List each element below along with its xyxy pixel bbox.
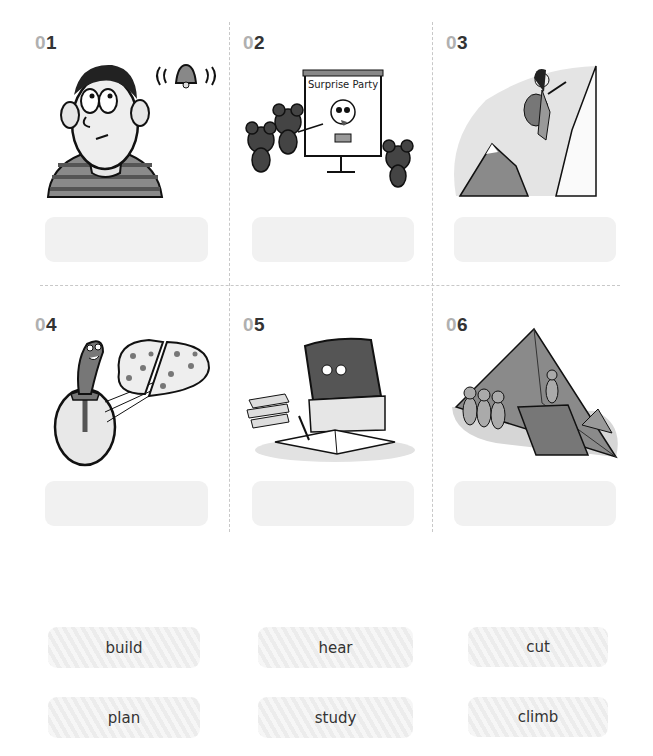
pizza-cutter-cutting-pizza-illustration [45,332,215,467]
workers-building-pyramid-illustration [446,325,621,465]
word-chip-build[interactable]: build [48,627,200,668]
item-number-3: 03 [446,33,468,52]
column-divider-2 [432,22,433,532]
word-chip-cut[interactable]: cut [468,627,608,667]
answer-box-6[interactable] [454,481,616,526]
answer-box-1[interactable] [45,217,208,262]
boy-hearing-bell-illustration [40,55,220,200]
svg-text:Surprise Party: Surprise Party [308,79,378,90]
mice-planning-surprise-party-illustration: Surprise Party [243,60,423,190]
word-chip-plan[interactable]: plan [48,697,200,738]
answer-box-5[interactable] [252,481,414,526]
item-number-2: 02 [243,33,265,52]
column-divider-1 [229,22,230,532]
word-chip-study[interactable]: study [258,697,413,738]
word-chip-climb[interactable]: climb [468,697,608,737]
answer-box-4[interactable] [45,481,208,526]
woman-climbing-mountain-illustration [446,60,611,200]
answer-box-2[interactable] [252,217,414,262]
item-number-1: 01 [35,33,57,52]
row-divider [40,285,620,286]
answer-box-3[interactable] [454,217,616,262]
rock-character-studying-illustration [245,330,420,465]
word-chip-hear[interactable]: hear [258,627,413,668]
